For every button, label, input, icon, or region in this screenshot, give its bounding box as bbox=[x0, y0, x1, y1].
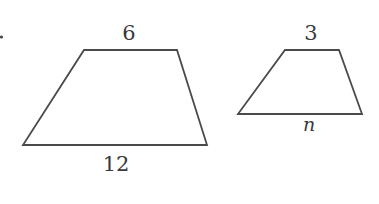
small-trapezoid bbox=[238, 50, 362, 114]
large-trapezoid-top-label: 6 bbox=[122, 23, 135, 44]
figure-svg bbox=[0, 0, 379, 204]
small-trapezoid-bottom-label: n bbox=[303, 115, 315, 134]
marker-dot bbox=[0, 35, 3, 38]
large-trapezoid-bottom-label: 12 bbox=[103, 154, 130, 175]
large-trapezoid bbox=[23, 50, 207, 145]
small-trapezoid-top-label: 3 bbox=[304, 23, 317, 44]
similar-trapezoids-figure: 6 12 3 n bbox=[0, 0, 379, 204]
